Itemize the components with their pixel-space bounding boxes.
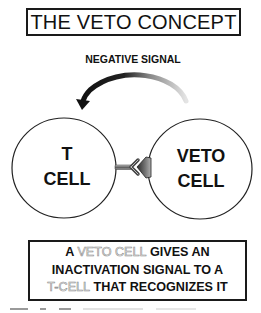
t-cell-label-line2: CELL xyxy=(24,167,110,192)
t-cell-label-line1: T xyxy=(24,142,110,167)
statement-box: A VETO CELL GIVES AN INACTIVATION SIGNAL… xyxy=(28,240,247,301)
statement-highlight-veto-cell: VETO CELL xyxy=(77,245,146,259)
caption-fragment xyxy=(83,308,143,310)
statement-line-3: T-CELL THAT RECOGNIZES IT xyxy=(47,279,227,297)
veto-cell-label-line1: VETO xyxy=(158,144,244,169)
caption-fragment xyxy=(10,308,28,310)
curved-arrow-icon xyxy=(76,75,186,110)
t-cell-label: T CELL xyxy=(24,142,110,192)
veto-cell-label-line2: CELL xyxy=(158,169,244,194)
caption-fragment xyxy=(40,308,46,310)
statement-text: A xyxy=(65,245,74,259)
statement-text: INACTIVATION SIGNAL TO A xyxy=(52,263,223,277)
cropped-caption xyxy=(10,308,250,313)
caption-fragment xyxy=(156,308,196,310)
receptor-icon xyxy=(115,160,138,174)
veto-cell-label: VETO CELL xyxy=(158,144,244,194)
statement-line-1: A VETO CELL GIVES AN xyxy=(65,244,209,262)
statement-line-2: INACTIVATION SIGNAL TO A xyxy=(52,262,223,280)
statement-text: GIVES AN xyxy=(150,245,210,259)
caption-fragment xyxy=(59,308,71,310)
statement-highlight-t-cell: T-CELL xyxy=(47,280,90,294)
statement-text: THAT RECOGNIZES IT xyxy=(94,280,228,294)
